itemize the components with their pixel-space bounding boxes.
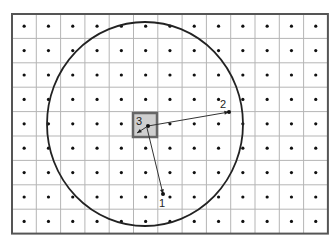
grid-dot <box>71 171 74 174</box>
grid-dot <box>217 171 220 174</box>
vector-line <box>148 112 229 126</box>
grid-dot <box>168 49 171 52</box>
grid-dot <box>71 147 74 150</box>
grid-dot <box>193 220 196 223</box>
grid-dot <box>217 49 220 52</box>
grid-dot <box>95 195 98 198</box>
grid-dot <box>314 98 317 101</box>
grid-dot <box>314 171 317 174</box>
grid-dot <box>95 49 98 52</box>
grid-dot <box>314 73 317 76</box>
point-3 <box>146 124 150 128</box>
grid-dot <box>193 49 196 52</box>
grid-dot <box>266 147 269 150</box>
grid-dot <box>314 122 317 125</box>
grid-dot <box>71 220 74 223</box>
grid-diagram: 1 2 3 <box>0 0 336 245</box>
grid-dot <box>193 195 196 198</box>
grid-dot <box>266 25 269 28</box>
grid-dot <box>71 195 74 198</box>
grid-dot <box>193 25 196 28</box>
grid-dot <box>290 25 293 28</box>
point-label-3: 3 <box>136 115 142 127</box>
grid-dot <box>23 25 26 28</box>
grid-dot <box>290 73 293 76</box>
grid-dot <box>241 25 244 28</box>
grid-dot <box>95 73 98 76</box>
grid-dot <box>168 98 171 101</box>
grid-dot <box>71 49 74 52</box>
grid-dot <box>193 73 196 76</box>
grid-dot <box>47 171 50 174</box>
grid-dot <box>71 122 74 125</box>
grid-dot <box>95 25 98 28</box>
grid-dot <box>120 98 123 101</box>
grid-dot <box>217 220 220 223</box>
grid-dot <box>71 25 74 28</box>
grid-dot <box>241 220 244 223</box>
grid-dot <box>168 147 171 150</box>
grid-dot <box>193 98 196 101</box>
grid-dot <box>290 171 293 174</box>
point-2 <box>227 110 231 114</box>
grid-dot <box>23 98 26 101</box>
grid-dot <box>120 73 123 76</box>
grid-dot <box>314 49 317 52</box>
grid-dot <box>47 195 50 198</box>
point-1 <box>161 192 165 196</box>
grid-dot <box>314 147 317 150</box>
grid-dot <box>168 171 171 174</box>
grid-dot <box>120 195 123 198</box>
grid-dot <box>120 171 123 174</box>
grid-dot <box>71 98 74 101</box>
grid-dot <box>314 220 317 223</box>
grid-dot <box>241 195 244 198</box>
grid-dot <box>144 171 147 174</box>
grid-dot <box>241 49 244 52</box>
grid-dot <box>120 122 123 125</box>
grid-dot <box>241 147 244 150</box>
point-label-1: 1 <box>159 197 165 209</box>
grid-dot <box>47 220 50 223</box>
grid-dot <box>144 195 147 198</box>
grid-dot <box>47 49 50 52</box>
point-label-2: 2 <box>220 98 226 110</box>
grid-dot <box>193 147 196 150</box>
grid-dot <box>47 73 50 76</box>
grid-dot <box>290 147 293 150</box>
grid-dot <box>193 171 196 174</box>
grid-dot <box>290 122 293 125</box>
grid-dot <box>71 73 74 76</box>
grid-dot <box>120 49 123 52</box>
grid-dot <box>290 98 293 101</box>
grid-dot <box>144 73 147 76</box>
grid-dot <box>217 73 220 76</box>
grid-dot <box>266 171 269 174</box>
grid-dot <box>241 73 244 76</box>
grid-dot <box>120 147 123 150</box>
grid-dot <box>314 195 317 198</box>
grid-dot <box>144 98 147 101</box>
grid-dot <box>193 122 196 125</box>
grid-dot <box>266 98 269 101</box>
grid-dot <box>217 147 220 150</box>
grid-dot <box>23 147 26 150</box>
grid-dot <box>290 49 293 52</box>
grid-dot <box>95 98 98 101</box>
grid-dot <box>23 220 26 223</box>
grid-dots <box>23 25 318 223</box>
grid-dot <box>144 49 147 52</box>
grid-dot <box>168 73 171 76</box>
grid-dot <box>290 220 293 223</box>
grid-dot <box>95 171 98 174</box>
grid-dot <box>23 171 26 174</box>
grid-dot <box>314 25 317 28</box>
grid-dot <box>266 195 269 198</box>
grid-dot <box>144 25 147 28</box>
grid-dot <box>23 195 26 198</box>
grid-dot <box>95 122 98 125</box>
grid-dot <box>95 220 98 223</box>
grid-dot <box>290 195 293 198</box>
grid-dot <box>23 49 26 52</box>
grid-dot <box>23 122 26 125</box>
